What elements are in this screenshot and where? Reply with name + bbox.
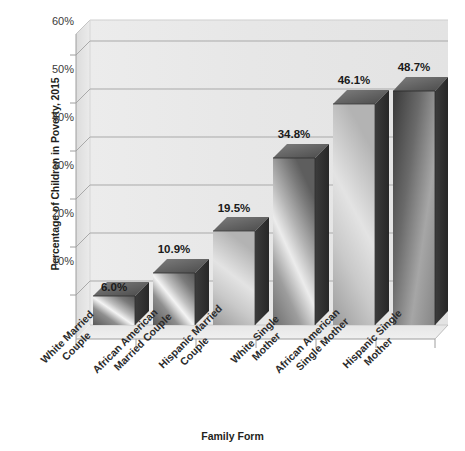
bar-side-face bbox=[435, 77, 448, 325]
bar-value-label: 34.8% bbox=[266, 128, 322, 140]
bar-value-label: 46.1% bbox=[326, 74, 382, 86]
bar-value-label: 19.5% bbox=[206, 202, 262, 214]
bar-front-face bbox=[333, 104, 375, 325]
bar-african-american-single-mother[interactable] bbox=[333, 90, 389, 325]
bar-front-face bbox=[273, 158, 315, 325]
bar-hispanic-single-mother[interactable] bbox=[393, 77, 448, 325]
bar-front-face bbox=[393, 91, 435, 325]
bar-side-face bbox=[315, 144, 329, 325]
bar-side-face bbox=[255, 217, 269, 325]
bar-value-label: 10.9% bbox=[146, 243, 202, 255]
bar-value-label: 48.7% bbox=[386, 61, 442, 73]
poverty-by-family-form-bar-chart: Percentage of Children in Poverty, 2015 … bbox=[0, 0, 465, 451]
bar-side-face bbox=[375, 90, 389, 325]
bar-value-label: 6.0% bbox=[86, 281, 142, 293]
bar-white-single-mother[interactable] bbox=[273, 144, 329, 325]
